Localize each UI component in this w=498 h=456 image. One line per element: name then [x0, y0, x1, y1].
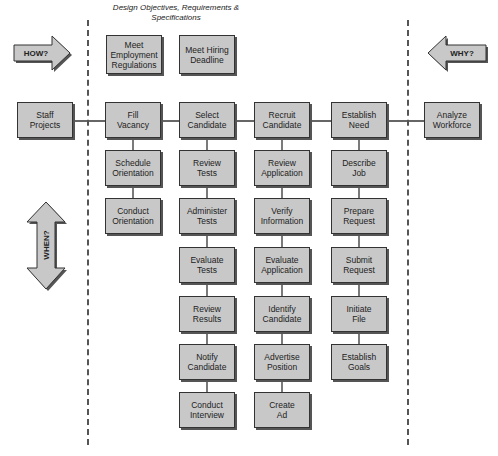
function-box: Submit Request	[331, 247, 387, 283]
function-box: Notify Candidate	[179, 344, 235, 380]
function-box: Establish Goals	[331, 344, 387, 380]
function-box: Evaluate Tests	[179, 247, 235, 283]
objectives-title: Design Objectives, Requirements & Specif…	[96, 3, 256, 23]
function-box-select-candidate: Select Candidate	[179, 102, 235, 138]
function-box-fill-vacancy: Fill Vacancy	[105, 102, 161, 138]
when-label: WHEN?	[42, 230, 51, 259]
function-box-analyze-workforce: Analyze Workforce	[424, 102, 480, 138]
function-box: Describe Job	[331, 150, 387, 186]
objective-box: Meet Employment Regulations	[106, 35, 162, 74]
function-box-establish-need: Establish Need	[331, 102, 387, 138]
connector-lines: HOW? WHY? WHEN?	[0, 0, 498, 456]
function-box-staff-projects: Staff Projects	[17, 102, 73, 138]
right-scope-line	[407, 20, 409, 445]
objective-box: Meet Hiring Deadline	[179, 35, 235, 74]
function-box: Conduct Interview	[179, 392, 235, 428]
function-box-recruit-candidate: Recruit Candidate	[254, 102, 310, 138]
when-arrow-icon: WHEN?	[27, 202, 67, 291]
function-box: Identify Candidate	[254, 296, 310, 332]
function-box: Administer Tests	[179, 198, 235, 234]
function-box: Advertise Position	[254, 344, 310, 380]
function-box: Create Ad	[254, 392, 310, 428]
function-box: Conduct Orientation	[105, 198, 161, 234]
function-box: Schedule Orientation	[105, 150, 161, 186]
why-arrow-icon: WHY?	[428, 36, 488, 72]
why-label: WHY?	[450, 49, 474, 58]
function-box: Prepare Request	[331, 198, 387, 234]
how-arrow-icon: HOW?	[14, 36, 72, 72]
function-box: Verify Information	[254, 198, 310, 234]
function-box: Evaluate Application	[254, 247, 310, 283]
function-box: Initiate File	[331, 296, 387, 332]
function-box: Review Application	[254, 150, 310, 186]
function-box: Review Results	[179, 296, 235, 332]
left-scope-line	[87, 20, 89, 445]
function-box: Review Tests	[179, 150, 235, 186]
how-label: HOW?	[24, 49, 49, 58]
fast-diagram: HOW? WHY? WHEN? Design Objectives, Requi…	[0, 0, 498, 456]
